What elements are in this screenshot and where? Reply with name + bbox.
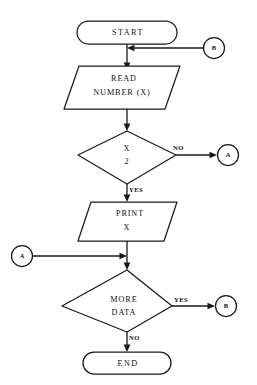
connector-a-left-label: A: [20, 252, 25, 259]
node-start[interactable]: START: [77, 21, 177, 44]
arrow-b-to-main: [127, 45, 135, 52]
decision-divisible-label-line1: X: [124, 144, 131, 153]
print-label-line2: X: [124, 223, 131, 232]
node-decision-divisible[interactable]: X 2: [78, 131, 176, 184]
flowchart-svg: START READ NUMBER (X) X 2 PRINT X MORE D…: [0, 0, 257, 385]
read-label-line2: NUMBER (X): [93, 88, 150, 97]
connector-b-bottom-right[interactable]: B: [216, 296, 237, 317]
node-end[interactable]: END: [83, 352, 171, 374]
flowchart-canvas: START READ NUMBER (X) X 2 PRINT X MORE D…: [0, 0, 257, 385]
decision-divisible-label-line2: 2: [125, 157, 130, 166]
decision-more-label-line2: DATA: [112, 308, 137, 317]
arrow-decision2-no-to-end: [124, 345, 131, 353]
connector-b-top-right[interactable]: B: [204, 38, 225, 59]
edge-label-divisible-no: NO: [173, 144, 184, 151]
connector-a-left[interactable]: A: [12, 246, 33, 267]
arrow-a-left-to-merge: [120, 253, 128, 260]
edge-label-more-yes: YES: [174, 296, 188, 303]
node-read[interactable]: READ NUMBER (X): [64, 66, 180, 109]
connector-b-bottom-right-label: B: [224, 302, 229, 309]
arrow-decision-no-to-a: [210, 152, 218, 159]
connector-b-top-right-label: B: [212, 44, 217, 51]
node-decision-more[interactable]: MORE DATA: [62, 270, 172, 332]
arrow-decision-yes-to-print: [124, 195, 131, 203]
edge-label-more-no: NO: [129, 334, 140, 341]
end-label: END: [117, 359, 138, 368]
print-parallelogram-shape: [78, 202, 177, 241]
start-label: START: [112, 28, 144, 37]
connector-a-right[interactable]: A: [218, 145, 239, 166]
read-label-line1: READ: [111, 74, 137, 83]
edge-label-divisible-yes: YES: [129, 186, 143, 193]
decision-more-label-line1: MORE: [110, 295, 137, 304]
connector-a-right-label: A: [226, 151, 231, 158]
arrow-read-to-decision: [124, 124, 131, 132]
node-print[interactable]: PRINT X: [78, 202, 177, 241]
arrow-decision2-yes-to-b: [208, 303, 216, 310]
print-label-line1: PRINT: [116, 209, 144, 218]
arrow-merge-to-decision2: [124, 263, 131, 271]
